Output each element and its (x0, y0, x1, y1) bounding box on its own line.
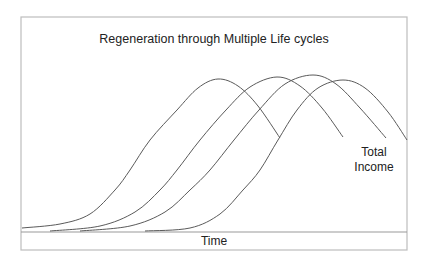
total-income-label-line1: Total (350, 145, 398, 160)
chart-frame (21, 17, 407, 250)
total-income-label: Total Income (350, 145, 398, 175)
x-axis-label: Time (21, 234, 407, 248)
life-cycle-curve-3 (80, 75, 386, 231)
chart-title: Regeneration through Multiple Life cycle… (21, 32, 407, 46)
life-cycle-curve-2 (50, 77, 343, 231)
total-income-label-line2: Income (350, 160, 398, 175)
life-cycle-curve-1 (22, 79, 280, 228)
